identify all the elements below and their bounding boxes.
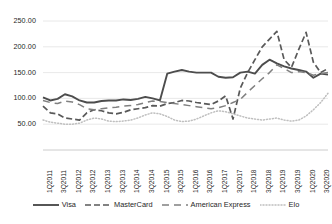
x-axis-tick-label: 1Q2013: [104, 170, 111, 193]
legend-swatch-dashed-icon: [85, 201, 111, 209]
x-axis-tick-label: 1Q2012: [75, 170, 82, 193]
legend-label: MasterCard: [114, 200, 153, 209]
x-axis-tick-label: 3Q2020: [323, 170, 330, 193]
y-axis-tick-label: 200.00: [0, 42, 36, 51]
legend-swatch-dotted-icon: [260, 201, 286, 209]
x-axis-tick-label: 1Q2011: [46, 170, 53, 193]
x-axis-tick-label: 1Q2015: [163, 170, 170, 193]
series-line-elo: [43, 93, 328, 124]
legend-item-mastercard[interactable]: MasterCard: [85, 200, 153, 209]
gridlines: [43, 21, 328, 124]
legend-item-visa[interactable]: Visa: [33, 200, 76, 209]
x-axis-tick-label: 3Q2019: [294, 170, 301, 193]
legend-item-american-express[interactable]: American Express: [162, 200, 251, 209]
legend-label: Visa: [62, 200, 76, 209]
legend-swatch-solid-icon: [33, 201, 59, 209]
y-axis-tick-label: 50.00: [0, 119, 36, 128]
y-axis-tick-label: 250.00: [0, 16, 36, 25]
series-line-mastercard: [43, 31, 328, 120]
y-axis-tick-label: 100.00: [0, 93, 36, 102]
x-axis-tick-label: 1Q2018: [250, 170, 257, 193]
x-axis-tick-label: 3Q2016: [206, 170, 213, 193]
series-line-visa: [43, 60, 328, 103]
legend-label: American Express: [191, 200, 251, 209]
x-axis-tick-label: 3Q2018: [265, 170, 272, 193]
x-axis-tick-label: 3Q2017: [236, 170, 243, 193]
x-axis-tick-label: 3Q2011: [60, 170, 67, 193]
x-axis-tick-label: 3Q2015: [177, 170, 184, 193]
series-lines: [43, 31, 328, 124]
chart-legend: VisaMasterCardAmerican ExpressElo: [0, 200, 332, 209]
x-axis-tick-label: 3Q2014: [148, 170, 155, 193]
x-axis-tick-label: 1Q2019: [279, 170, 286, 193]
legend-swatch-longdash-icon: [162, 201, 188, 209]
legend-label: Elo: [289, 200, 300, 209]
legend-item-elo[interactable]: Elo: [260, 200, 300, 209]
x-axis-tick-label: 1Q2014: [133, 170, 140, 193]
x-axis-tick-label: 1Q2016: [192, 170, 199, 193]
x-axis-tick-label: 3Q2012: [89, 170, 96, 193]
x-axis-tick-label: 1Q2017: [221, 170, 228, 193]
x-axis-tick-label: 1Q2020: [309, 170, 316, 193]
line-chart: 250.00200.00150.00100.0050.00 1Q20113Q20…: [0, 0, 332, 224]
x-axis-tick-label: 3Q2013: [119, 170, 126, 193]
y-axis-tick-label: 150.00: [0, 68, 36, 77]
